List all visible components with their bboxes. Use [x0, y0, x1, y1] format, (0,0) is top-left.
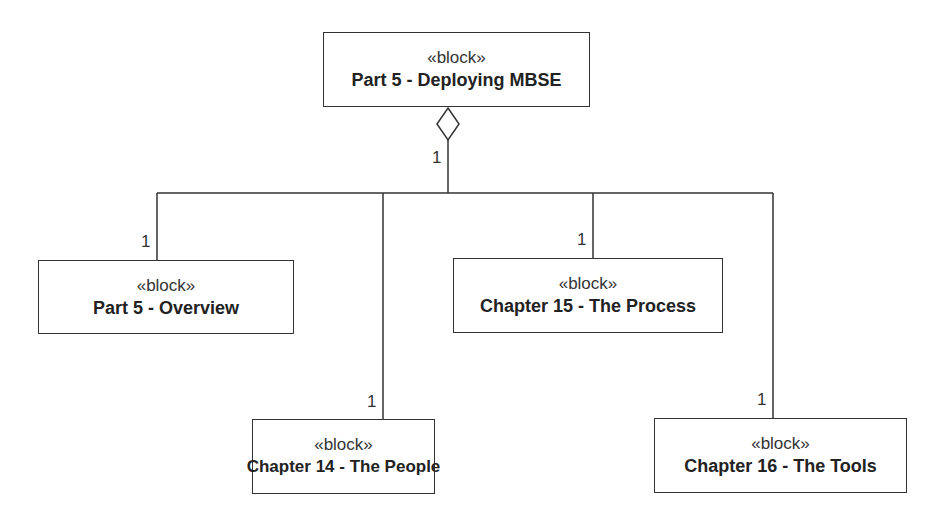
multiplicity-root: 1	[432, 148, 441, 168]
block-name: Chapter 16 - The Tools	[684, 454, 877, 478]
stereotype-label: «block»	[314, 434, 373, 455]
multiplicity-process: 1	[577, 230, 586, 250]
block-tools[interactable]: «block» Chapter 16 - The Tools	[654, 418, 907, 493]
block-name: Chapter 14 - The People	[247, 455, 441, 479]
stereotype-label: «block»	[427, 47, 486, 68]
stereotype-label: «block»	[137, 275, 196, 296]
block-process[interactable]: «block» Chapter 15 - The Process	[453, 258, 723, 333]
block-name: Part 5 - Deploying MBSE	[351, 68, 561, 92]
aggregation-diamond-icon	[437, 108, 459, 140]
block-overview[interactable]: «block» Part 5 - Overview	[38, 260, 294, 334]
multiplicity-people: 1	[367, 392, 376, 412]
stereotype-label: «block»	[751, 433, 810, 454]
block-name: Part 5 - Overview	[93, 296, 239, 320]
block-name: Chapter 15 - The Process	[480, 294, 696, 318]
multiplicity-overview: 1	[141, 232, 150, 252]
multiplicity-tools: 1	[757, 390, 766, 410]
block-people[interactable]: «block» Chapter 14 - The People	[252, 419, 435, 494]
stereotype-label: «block»	[559, 273, 618, 294]
block-root[interactable]: «block» Part 5 - Deploying MBSE	[323, 32, 590, 107]
